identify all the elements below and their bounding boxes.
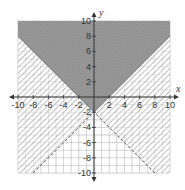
y-tick-label: -10 — [78, 168, 91, 178]
x-tick-label: 6 — [137, 100, 142, 110]
y-tick-label: -8 — [83, 153, 91, 163]
x-tick-label: -10 — [11, 100, 24, 110]
y-axis-arrow-down-icon — [92, 177, 97, 182]
x-tick-label: 8 — [152, 100, 157, 110]
y-tick-label: -4 — [83, 122, 91, 132]
y-tick-label: 8 — [86, 31, 91, 41]
y-axis-arrow-up-icon — [92, 12, 97, 17]
x-tick-label: -2 — [75, 100, 83, 110]
y-tick-label: 4 — [86, 62, 91, 72]
y-tick-label: -6 — [83, 138, 91, 148]
x-tick-label: -8 — [29, 100, 37, 110]
x-tick-label: -4 — [60, 100, 68, 110]
x-axis-arrow-right-icon — [174, 95, 179, 100]
x-tick-label: 10 — [165, 100, 175, 110]
x-axis-label: x — [175, 83, 181, 94]
x-axis-arrow-left-icon — [9, 95, 14, 100]
y-tick-label: 2 — [86, 77, 91, 87]
x-tick-label: -6 — [44, 100, 52, 110]
x-tick-label: 4 — [122, 100, 127, 110]
y-axis-label: y — [98, 7, 104, 18]
y-tick-label: -2 — [83, 107, 91, 117]
x-tick-label: 2 — [107, 100, 112, 110]
y-tick-label: 10 — [81, 16, 91, 26]
y-tick-label: 6 — [86, 46, 91, 56]
inequality-graph: -10-8-6-4-2246810-10-8-6-4-2246810xy — [0, 0, 185, 190]
